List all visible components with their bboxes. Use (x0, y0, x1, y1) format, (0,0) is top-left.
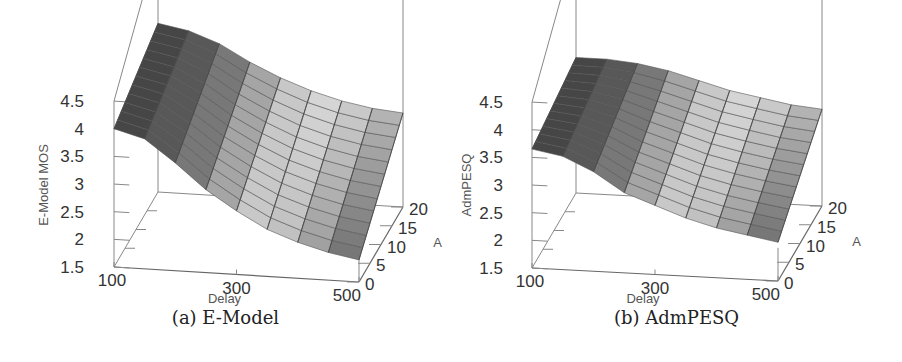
z-tick-label: 3 (75, 175, 84, 194)
z-tick (532, 157, 547, 158)
z-axis-title: E-Model MOS (36, 144, 51, 226)
a-tick-label: 5 (376, 256, 385, 275)
z-tick (114, 212, 129, 213)
a-axis-title: A (852, 234, 861, 249)
a-tick-label: 10 (806, 237, 825, 256)
z-tick (532, 185, 547, 186)
z-tick-label: 4 (75, 120, 84, 139)
caption-admpesq: (b) AdmPESQ (451, 307, 902, 328)
z-tick-label: 4 (494, 121, 503, 140)
a-tick-label: 15 (398, 219, 417, 238)
z-tick (532, 102, 547, 103)
surface (532, 58, 822, 243)
delay-tick-label: 100 (98, 271, 126, 290)
a-tick-label: 20 (409, 200, 428, 219)
z-tick-label: 3 (494, 176, 503, 195)
z-tick-label: 4.5 (60, 92, 84, 111)
z-axis-title: AdmPESQ (459, 154, 474, 217)
z-tick-label: 4.5 (479, 93, 503, 112)
z-tick-label: 2.5 (479, 204, 503, 223)
delay-tick-label: 100 (516, 272, 544, 291)
z-tick (114, 184, 129, 185)
surface (114, 23, 403, 260)
a-tick-label: 10 (387, 238, 406, 257)
a-tick-label: 20 (828, 199, 847, 218)
z-tick (114, 239, 129, 240)
z-tick-label: 1.5 (60, 258, 84, 277)
z-tick-label: 3.5 (479, 148, 503, 167)
a-tick-label: 5 (795, 255, 804, 274)
a-tick-label: 15 (817, 218, 836, 237)
z-tick-label: 3.5 (60, 147, 84, 166)
z-tick (114, 267, 129, 268)
delay-tick-label: 500 (752, 285, 780, 304)
z-tick-label: 2.5 (60, 203, 84, 222)
panel-e-model: 1.522.533.544.505101520A100300500DelayE-… (0, 0, 451, 362)
z-tick-label: 2 (75, 230, 84, 249)
z-tick (114, 156, 129, 157)
a-tick-label: 0 (784, 274, 793, 293)
z-tick (532, 213, 547, 214)
delay-tick-label: 500 (333, 286, 361, 305)
z-tick (532, 240, 547, 241)
a-tick-label: 0 (365, 275, 374, 294)
panel-admpesq: 1.522.533.544.505101520A100300500DelayAd… (451, 0, 902, 362)
z-tick-label: 1.5 (479, 259, 503, 278)
delay-axis-title: Delay (626, 291, 660, 306)
surface-cell (572, 58, 606, 68)
caption-e-model: (a) E-Model (0, 307, 451, 328)
a-axis-title: A (433, 235, 442, 250)
z-tick-label: 2 (494, 231, 503, 250)
delay-axis-title: Delay (208, 291, 242, 306)
